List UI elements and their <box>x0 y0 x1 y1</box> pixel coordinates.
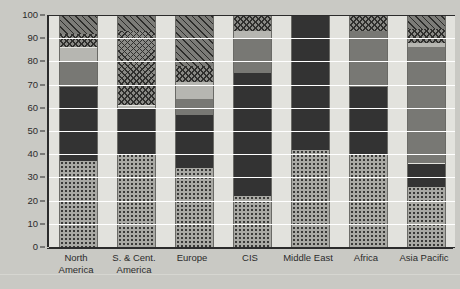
x-axis-tick-label-line: S. & Cent. <box>105 252 163 264</box>
x-axis-tick-label: Europe <box>163 252 221 264</box>
bar-segment[interactable] <box>350 87 387 154</box>
bar-segment[interactable] <box>408 164 445 187</box>
y-axis-tick-mark <box>40 15 45 16</box>
bar-segment[interactable] <box>234 15 271 31</box>
x-axis-tick-label-line: CIS <box>221 252 279 264</box>
bar-segment[interactable] <box>176 168 213 247</box>
y-axis-tick-label: 90 <box>27 33 38 43</box>
bar-segment[interactable] <box>234 31 271 38</box>
gridline <box>49 38 455 39</box>
bar-segment[interactable] <box>350 31 387 87</box>
x-axis-tick-label: Africa <box>337 252 395 264</box>
x-axis-tick-label: S. & Cent.America <box>105 252 163 275</box>
bar-segment[interactable] <box>176 66 213 82</box>
x-axis-tick-label-line: Asia Pacific <box>395 252 453 264</box>
bar-segment[interactable] <box>176 15 213 66</box>
y-axis-tick-mark <box>40 107 45 108</box>
y-axis-tick-mark <box>40 38 45 39</box>
footer-divider <box>0 274 460 275</box>
y-axis-tick-label: 50 <box>27 126 38 136</box>
x-axis: NorthAmericaS. & Cent.AmericaEuropeCISMi… <box>47 249 453 289</box>
y-axis-tick-mark <box>40 247 45 248</box>
x-axis-tick-label-line: Europe <box>163 252 221 264</box>
x-axis-tick-label-line: North <box>47 252 105 264</box>
plot-area <box>47 15 455 247</box>
x-axis-tick-label-line: Middle East <box>279 252 337 264</box>
gridline <box>49 108 455 109</box>
y-axis-tick-label: 80 <box>27 57 38 67</box>
x-axis-tick-label: CIS <box>221 252 279 264</box>
bar-segment[interactable] <box>408 29 445 43</box>
bar-segment[interactable] <box>408 15 445 29</box>
bar-segment[interactable] <box>234 196 271 247</box>
y-axis: 1009080706050403020100 <box>0 0 47 289</box>
y-axis-tick-label: 30 <box>27 173 38 183</box>
bar-segment[interactable] <box>408 43 445 48</box>
y-axis-tick-label: 10 <box>27 219 38 229</box>
bar-segment[interactable] <box>60 48 97 62</box>
bar-segment[interactable] <box>60 87 97 161</box>
gridline <box>49 154 455 155</box>
y-axis-tick-mark <box>40 223 45 224</box>
gridline <box>49 61 455 62</box>
bar-segment[interactable] <box>60 15 97 34</box>
bar-segment[interactable] <box>60 34 97 48</box>
y-axis-tick-label: 60 <box>27 103 38 113</box>
gridline <box>49 177 455 178</box>
y-axis-tick-label: 70 <box>27 80 38 90</box>
gridline <box>49 201 455 202</box>
x-axis-line <box>47 248 453 249</box>
y-axis-tick-mark <box>40 131 45 132</box>
x-axis-tick-label: Asia Pacific <box>395 252 453 264</box>
y-axis-tick-label: 40 <box>27 149 38 159</box>
gridline <box>49 85 455 86</box>
x-axis-tick-label-line: Africa <box>337 252 395 264</box>
bar-segment[interactable] <box>292 15 329 150</box>
gridline <box>49 224 455 225</box>
bar-segment[interactable] <box>292 150 329 247</box>
stacked-bar-chart: 1009080706050403020100 NorthAmericaS. & … <box>0 0 460 289</box>
y-axis-tick-mark <box>40 177 45 178</box>
bar-segment[interactable] <box>60 61 97 87</box>
y-axis-tick-mark <box>40 61 45 62</box>
y-axis-tick-mark <box>40 84 45 85</box>
y-axis-tick-mark <box>40 154 45 155</box>
y-axis-tick-label: 20 <box>27 196 38 206</box>
bar-segment[interactable] <box>118 31 155 105</box>
y-axis-tick-label: 0 <box>33 242 38 252</box>
gridline <box>49 15 455 16</box>
bar-segment[interactable] <box>118 15 155 31</box>
bar-segment[interactable] <box>60 161 97 247</box>
y-axis-tick-mark <box>40 200 45 201</box>
bar-segment[interactable] <box>176 115 213 168</box>
bar-segment[interactable] <box>176 99 213 115</box>
bar-segment[interactable] <box>350 15 387 31</box>
bar-segment[interactable] <box>234 38 271 73</box>
x-axis-tick-label: Middle East <box>279 252 337 264</box>
bar-segment[interactable] <box>408 47 445 163</box>
y-axis-tick-label: 100 <box>22 10 38 20</box>
x-axis-tick-label: NorthAmerica <box>47 252 105 275</box>
gridline <box>49 131 455 132</box>
bar-segment[interactable] <box>408 187 445 247</box>
